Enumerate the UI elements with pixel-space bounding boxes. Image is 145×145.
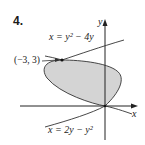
origin-point: [104, 105, 107, 108]
equation-lower: x = 2y − y²: [48, 124, 93, 135]
y-axis-label: y: [98, 16, 102, 27]
equation-upper: x = y² − 4y: [49, 31, 94, 42]
figure: 4. y x x = y² − 4y x = 2y − y² (−3, 3): [0, 0, 145, 145]
point-label: (−3, 3): [14, 55, 40, 65]
y-axis-arrow-icon: [103, 19, 108, 26]
intersection-point: [60, 58, 63, 61]
problem-number: 4.: [13, 14, 23, 28]
x-axis-label: x: [132, 108, 136, 119]
